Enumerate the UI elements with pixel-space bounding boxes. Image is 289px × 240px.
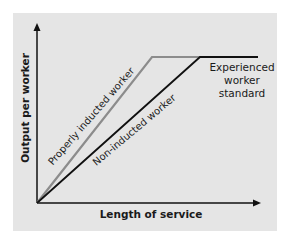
standard-line-3: standard bbox=[209, 87, 274, 100]
y-axis-label: Output per worker bbox=[19, 53, 31, 163]
standard-line-1: Experienced bbox=[209, 61, 274, 74]
y-axis-arrow-icon bbox=[34, 23, 41, 31]
standard-line-2: worker bbox=[209, 74, 274, 87]
x-axis-label: Length of service bbox=[100, 208, 203, 220]
experienced-standard-label: Experienced worker standard bbox=[209, 61, 274, 100]
x-axis-arrow-icon bbox=[253, 200, 261, 207]
